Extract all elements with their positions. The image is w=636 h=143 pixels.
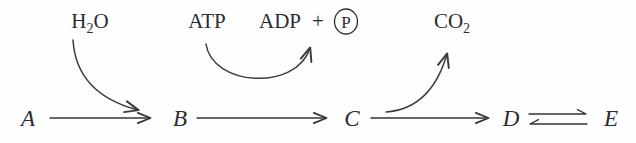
metabolite-a: A [19,106,36,131]
phosphate-letter: P [341,13,350,32]
plus-sign: + [312,9,324,33]
pathway-diagram: P H2O ATP ADP + CO2 A B C D E [0,0,636,143]
curved-arrow-co2-output [386,54,447,112]
water-label: H2O [71,9,108,36]
metabolite-d: D [502,106,520,131]
equilibrium-arrow-d-e [529,110,587,124]
atp-label: ATP [188,9,225,33]
metabolite-e: E [603,106,618,131]
adp-label: ADP [259,9,301,33]
metabolite-c: C [344,106,360,131]
carbon-dioxide-label: CO2 [434,9,470,36]
curved-arrow-water-input [73,40,138,110]
curved-arrow-atp-adp [206,44,310,78]
phosphate-circle-icon: P [335,9,358,34]
metabolite-b: B [173,106,187,131]
